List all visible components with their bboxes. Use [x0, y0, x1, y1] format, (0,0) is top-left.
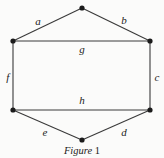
edge-label-b: b [121, 15, 127, 26]
edge-d-line [82, 110, 150, 140]
figure-container: a b c d e f g h Figure 1 [0, 0, 164, 158]
vertex-top [79, 5, 84, 10]
figure-caption-number: 1 [95, 145, 100, 156]
figure-caption-word: Figure [64, 145, 92, 156]
edge-a-line [13, 8, 82, 41]
vertex-upper-left [10, 38, 15, 43]
figure-caption: Figure 1 [0, 145, 164, 156]
hexagon-diagram [0, 0, 164, 158]
chord-label-h: h [79, 95, 85, 106]
edge-label-a: a [35, 16, 41, 27]
edge-b-line [82, 8, 150, 41]
vertex-lower-left [10, 107, 15, 112]
chord-label-g: g [79, 44, 85, 55]
edge-label-f: f [6, 72, 9, 83]
vertex-lower-right [147, 107, 152, 112]
edge-label-d: d [121, 127, 127, 138]
vertex-bottom [79, 137, 84, 142]
vertex-upper-right [147, 38, 152, 43]
edge-label-c: c [154, 72, 159, 83]
edge-label-e: e [42, 127, 47, 138]
